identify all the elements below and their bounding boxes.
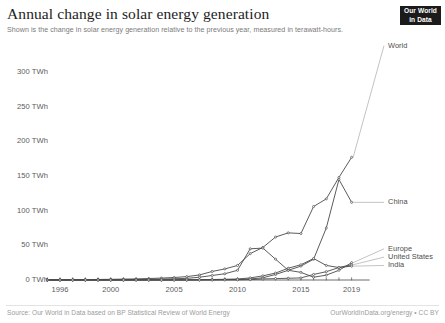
data-point[interactable] bbox=[287, 277, 289, 279]
data-point[interactable] bbox=[300, 264, 302, 266]
data-point[interactable] bbox=[338, 178, 340, 180]
data-point[interactable] bbox=[160, 279, 162, 281]
x-axis-tick-label: 1996 bbox=[40, 285, 80, 294]
source-text: Source: Our World in Data based on BP St… bbox=[7, 309, 230, 316]
data-point[interactable] bbox=[325, 227, 327, 229]
data-point[interactable] bbox=[236, 269, 238, 271]
chart-root: Annual change in solar energy generation… bbox=[0, 0, 445, 323]
data-point[interactable] bbox=[351, 265, 353, 267]
y-axis-tick-label: 300 TWh bbox=[0, 67, 48, 76]
chart-svg bbox=[0, 0, 445, 323]
data-point[interactable] bbox=[148, 279, 150, 281]
data-point[interactable] bbox=[224, 273, 226, 275]
data-point[interactable] bbox=[97, 279, 99, 281]
license-text[interactable]: OurWorldInData.org/energy • CC BY bbox=[330, 309, 439, 316]
data-point[interactable] bbox=[338, 269, 340, 271]
data-point[interactable] bbox=[72, 279, 74, 281]
x-axis-tick-label: 2010 bbox=[218, 285, 258, 294]
data-point[interactable] bbox=[198, 276, 200, 278]
data-point[interactable] bbox=[249, 253, 251, 255]
data-point[interactable] bbox=[313, 257, 315, 259]
data-point[interactable] bbox=[211, 279, 213, 281]
data-point[interactable] bbox=[313, 205, 315, 207]
series-line-world[interactable] bbox=[47, 157, 351, 280]
data-point[interactable] bbox=[325, 274, 327, 276]
data-point[interactable] bbox=[287, 267, 289, 269]
data-point[interactable] bbox=[275, 236, 277, 238]
data-point[interactable] bbox=[198, 274, 200, 276]
y-axis-tick-label: 250 TWh bbox=[0, 102, 48, 111]
y-axis-tick-label: 150 TWh bbox=[0, 171, 48, 180]
data-point[interactable] bbox=[59, 279, 61, 281]
data-point[interactable] bbox=[135, 279, 137, 281]
data-point[interactable] bbox=[325, 271, 327, 273]
data-point[interactable] bbox=[262, 275, 264, 277]
chart-plot-area: 0 TWh50 TWh100 TWh150 TWh200 TWh250 TWh3… bbox=[0, 0, 445, 323]
data-point[interactable] bbox=[351, 201, 353, 203]
y-axis-tick-label: 100 TWh bbox=[0, 206, 48, 215]
data-point[interactable] bbox=[351, 156, 353, 158]
data-point[interactable] bbox=[275, 278, 277, 280]
data-point[interactable] bbox=[262, 247, 264, 249]
data-point[interactable] bbox=[325, 264, 327, 266]
data-point[interactable] bbox=[325, 198, 327, 200]
x-axis-tick-label: 2000 bbox=[91, 285, 131, 294]
y-axis-tick-label: 50 TWh bbox=[0, 240, 48, 249]
chart-footer: Source: Our World in Data based on BP St… bbox=[0, 305, 445, 321]
series-leader-line bbox=[353, 46, 384, 158]
x-axis-tick-label: 2005 bbox=[154, 285, 194, 294]
series-label-world[interactable]: World bbox=[388, 41, 407, 50]
y-axis-tick-label: 0 TWh bbox=[0, 275, 48, 284]
data-point[interactable] bbox=[300, 271, 302, 273]
series-leader-line bbox=[353, 265, 384, 266]
series-leader-line bbox=[353, 257, 384, 265]
data-point[interactable] bbox=[186, 279, 188, 281]
data-point[interactable] bbox=[236, 264, 238, 266]
data-point[interactable] bbox=[262, 278, 264, 280]
x-axis-tick-label: 2015 bbox=[281, 285, 321, 294]
series-label-india[interactable]: India bbox=[388, 260, 404, 269]
data-point[interactable] bbox=[249, 248, 251, 250]
data-point[interactable] bbox=[84, 279, 86, 281]
data-point[interactable] bbox=[224, 268, 226, 270]
data-point[interactable] bbox=[211, 270, 213, 272]
data-point[interactable] bbox=[275, 272, 277, 274]
data-point[interactable] bbox=[300, 232, 302, 234]
data-point[interactable] bbox=[287, 232, 289, 234]
x-axis-tick-label: 2019 bbox=[332, 285, 372, 294]
series-label-china[interactable]: China bbox=[388, 197, 408, 206]
data-point[interactable] bbox=[275, 258, 277, 260]
series-line-china[interactable] bbox=[47, 179, 351, 280]
series-leader-line bbox=[353, 249, 384, 263]
data-point[interactable] bbox=[300, 277, 302, 279]
data-point[interactable] bbox=[236, 279, 238, 281]
y-axis-tick-label: 200 TWh bbox=[0, 136, 48, 145]
data-point[interactable] bbox=[122, 279, 124, 281]
data-point[interactable] bbox=[338, 266, 340, 268]
data-point[interactable] bbox=[173, 279, 175, 281]
data-point[interactable] bbox=[211, 274, 213, 276]
data-point[interactable] bbox=[110, 279, 112, 281]
data-point[interactable] bbox=[249, 279, 251, 281]
data-point[interactable] bbox=[313, 273, 315, 275]
footer-divider bbox=[6, 305, 439, 306]
data-point[interactable] bbox=[224, 279, 226, 281]
data-point[interactable] bbox=[198, 279, 200, 281]
data-point[interactable] bbox=[313, 276, 315, 278]
